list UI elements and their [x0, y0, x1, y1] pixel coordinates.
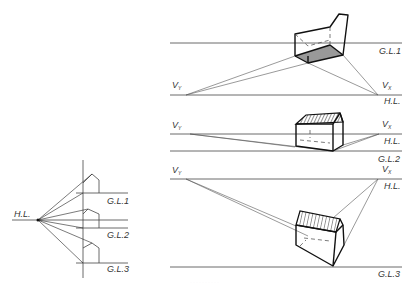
- p3-hl-label: H.L.: [384, 181, 401, 191]
- panel-3: VY VX H.L. G.L.3: [170, 164, 402, 279]
- p1-gl-label: G.L.1: [379, 46, 401, 56]
- house-profile-3: [83, 243, 99, 263]
- p3-vanishing-rays: [186, 179, 378, 245]
- p1-vanishing-rays: [186, 55, 378, 95]
- p3-gl-label: G.L.3: [378, 269, 400, 279]
- p2-vanishing-rays: [190, 134, 379, 151]
- left-hl-label: H.L.: [14, 209, 31, 219]
- p2-vy-label: VY: [172, 120, 182, 131]
- panel-1: VY VX G.L.1 H.L.: [170, 14, 402, 106]
- p1-hidden-edges: [295, 34, 330, 46]
- p1-vx-label: VX: [382, 80, 392, 91]
- house-profile-2: [83, 209, 99, 228]
- eye-point: [37, 219, 40, 222]
- p3-hidden-edge: [304, 238, 330, 241]
- panel-2: VY VX H.L. G.L.2: [170, 113, 402, 164]
- sight-rays: [38, 174, 92, 263]
- p2-hidden-edge: [300, 140, 330, 143]
- left-gl2-label: G.L.2: [107, 230, 129, 240]
- p3-vx-label: VX: [382, 164, 392, 175]
- p1-vy-label: VY: [172, 80, 182, 91]
- p3-hidden-edge-2: [300, 240, 306, 246]
- p2-hl-label: H.L.: [384, 136, 401, 146]
- perspective-diagram: H.L. G.L.1 G.L.2 G.L.3 VY VX G.L.1 H.L.: [0, 0, 411, 292]
- left-gl3-label: G.L.3: [107, 264, 129, 274]
- p2-vx-label: VX: [382, 119, 392, 130]
- figure-caption: ··········: [190, 279, 280, 284]
- p3-vy-label: VY: [172, 165, 182, 176]
- left-gl1-label: G.L.1: [107, 196, 129, 206]
- house-profile-1: [83, 174, 99, 193]
- p2-gl-label: G.L.2: [378, 154, 400, 164]
- left-side-view: H.L. G.L.1 G.L.2 G.L.3: [12, 160, 129, 278]
- p1-hl-label: H.L.: [384, 96, 401, 106]
